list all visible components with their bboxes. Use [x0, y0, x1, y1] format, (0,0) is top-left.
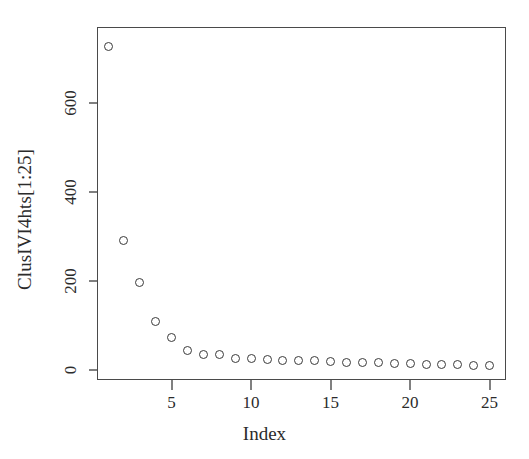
- x-tick-label: 15: [311, 393, 351, 413]
- scatter-plot-figure: 0200400600 510152025 ClusIVI4hts[1:25] I…: [0, 0, 529, 459]
- x-tick-label: 20: [390, 393, 430, 413]
- data-point: [469, 361, 478, 370]
- data-point: [247, 354, 256, 363]
- data-point: [485, 361, 494, 370]
- x-tick-label: 10: [231, 393, 271, 413]
- y-tick-label: 200: [61, 258, 81, 304]
- data-point: [119, 236, 128, 245]
- data-point: [390, 359, 399, 368]
- data-point: [406, 359, 415, 368]
- data-point: [342, 358, 351, 367]
- data-point: [263, 355, 272, 364]
- y-tick-label: 0: [61, 347, 81, 393]
- x-tick-label: 5: [152, 393, 192, 413]
- data-point: [358, 358, 367, 367]
- x-axis-title: Index: [0, 423, 529, 445]
- y-tick-label: 600: [61, 80, 81, 126]
- y-tick-label: 400: [61, 169, 81, 215]
- data-point: [294, 356, 303, 365]
- data-point: [326, 357, 335, 366]
- x-tick-label: 25: [470, 393, 510, 413]
- data-point: [422, 360, 431, 369]
- data-point: [104, 42, 113, 51]
